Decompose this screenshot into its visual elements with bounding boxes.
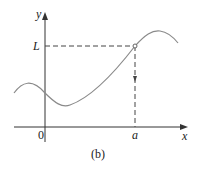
- open-point: [133, 44, 137, 48]
- origin-label: 0: [38, 129, 44, 141]
- y-axis-arrow-icon: [42, 12, 48, 20]
- y-axis-label: y: [36, 8, 41, 20]
- down-arrow-icon: [133, 76, 137, 82]
- figure: y L 0 a x (b): [0, 0, 198, 177]
- y-mark-label: L: [33, 40, 40, 52]
- x-axis-label: x: [182, 130, 187, 142]
- x-mark-label: a: [132, 129, 138, 141]
- figure-caption: (b): [91, 148, 105, 160]
